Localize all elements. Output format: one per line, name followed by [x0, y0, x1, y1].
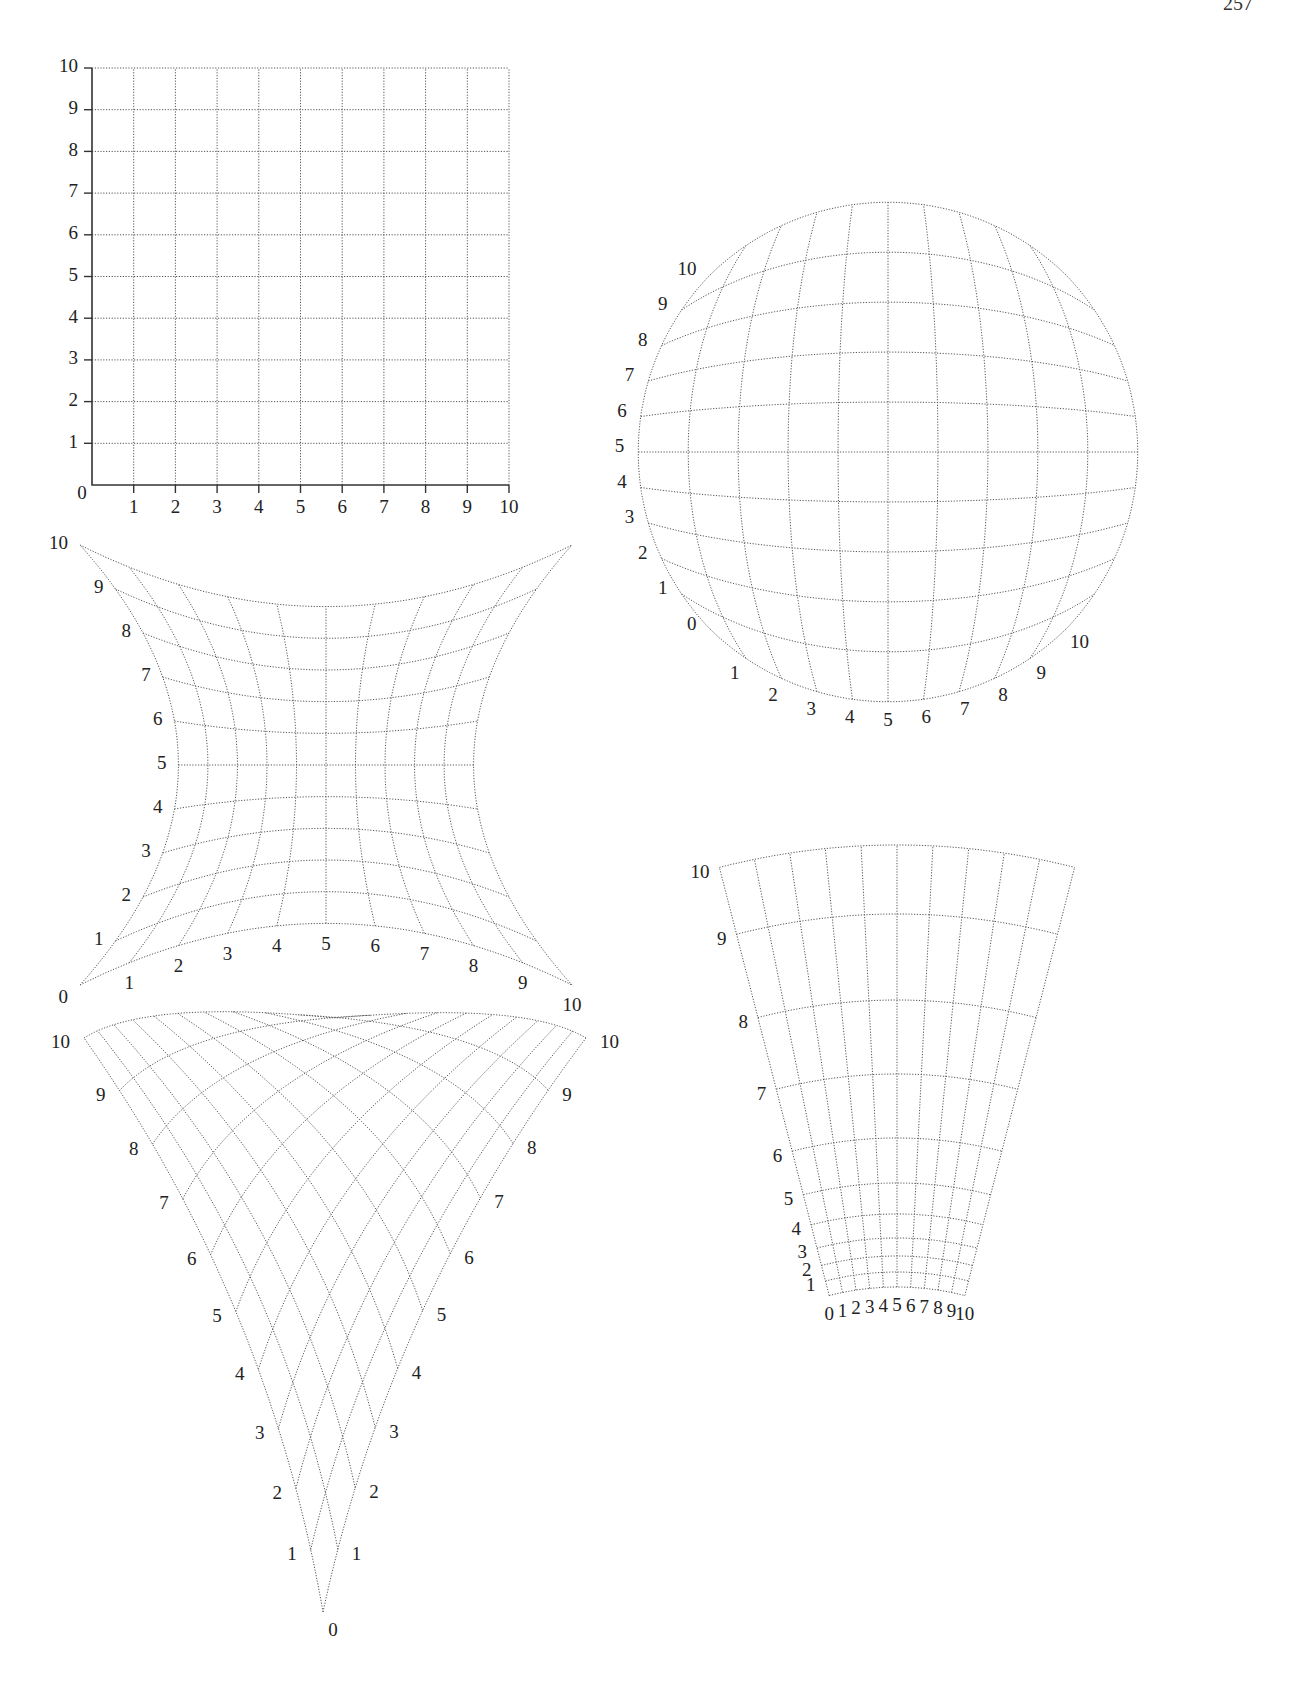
row-label: 8: [738, 1011, 748, 1032]
row-label: 2: [638, 542, 648, 563]
spherical-bulge-grid: 01234567891012345678910: [615, 202, 1138, 730]
fan-perspective-grid: 12345678910012345678910: [690, 845, 1074, 1324]
vertex-label: 0: [328, 1619, 338, 1640]
right-edge-label: 5: [437, 1304, 447, 1325]
y-axis-label: 1: [69, 431, 79, 452]
ray-column-line: [938, 853, 1004, 1290]
row-label: 8: [638, 329, 648, 350]
row-label: 9: [658, 293, 668, 314]
row-line: [80, 545, 572, 607]
row-label: 1: [94, 928, 104, 949]
row-label: 5: [157, 752, 167, 773]
row-label: 10: [690, 861, 709, 882]
column-label: 6: [922, 706, 932, 727]
row-label: 10: [49, 532, 68, 553]
column-label: 2: [768, 684, 778, 705]
left-family-line: [84, 1038, 323, 1612]
left-family-line: [233, 1012, 480, 1198]
row-label: 5: [615, 435, 625, 456]
origin-label: 0: [77, 482, 87, 503]
x-axis-label: 4: [254, 496, 264, 517]
y-axis-label: 6: [69, 222, 79, 243]
column-label: 6: [370, 935, 380, 956]
left-family-line: [204, 1012, 450, 1254]
right-family-line: [311, 1031, 573, 1550]
row-label: 7: [625, 364, 635, 385]
v-shaped-curved-grid: 01122334455667788991010: [51, 1012, 619, 1641]
x-axis-label: 9: [463, 496, 473, 517]
right-edge-label: 1: [352, 1543, 362, 1564]
right-family-line: [211, 1013, 467, 1255]
column-label: 1: [838, 1300, 848, 1321]
column-label: 5: [892, 1294, 902, 1315]
right-edge-label: 4: [412, 1362, 422, 1383]
row-label: 1: [658, 577, 668, 598]
left-edge-label: 8: [129, 1138, 139, 1159]
y-axis-label: 3: [69, 347, 79, 368]
row-label: 5: [784, 1188, 794, 1209]
column-line: [474, 545, 572, 985]
x-axis-label: 5: [296, 496, 306, 517]
x-axis-label: 10: [500, 496, 519, 517]
ray-column-line: [952, 859, 1040, 1292]
column-label: 7: [920, 1296, 930, 1317]
column-line: [385, 597, 424, 934]
ray-column-line: [911, 846, 933, 1287]
column-label: 1: [124, 972, 134, 993]
row-label: 6: [773, 1145, 783, 1166]
row-line: [163, 828, 490, 853]
left-edge-label: 6: [187, 1248, 197, 1269]
right-family-line: [153, 1013, 406, 1144]
row-label: 8: [121, 620, 131, 641]
column-label: 7: [420, 943, 430, 964]
column-label: 7: [960, 698, 970, 719]
right-family-line: [323, 1038, 586, 1612]
row-label: 3: [798, 1241, 808, 1262]
row-label: 0: [59, 986, 69, 1007]
left-family-line: [154, 1016, 398, 1368]
row-label: 4: [792, 1218, 802, 1239]
column-label: 2: [851, 1297, 861, 1318]
column-line: [228, 597, 267, 934]
column-label: 10: [955, 1303, 974, 1324]
row-label: 7: [757, 1083, 767, 1104]
y-axis-label: 9: [69, 97, 79, 118]
meridian-line: [638, 275, 710, 630]
right-family-line: [236, 1015, 493, 1312]
column-label: 3: [865, 1296, 875, 1317]
left-edge-label: 1: [287, 1543, 297, 1564]
row-label: 10: [678, 258, 697, 279]
left-edge-label: 3: [255, 1422, 265, 1443]
column-label: 8: [933, 1297, 943, 1318]
y-axis-label: 7: [69, 180, 79, 201]
ray-column-line: [825, 849, 869, 1289]
left-edge-label: 2: [272, 1482, 282, 1503]
row-label: 9: [94, 576, 104, 597]
ray-column-line: [965, 867, 1075, 1295]
ray-column-line: [861, 846, 883, 1287]
right-edge-label: 9: [562, 1084, 572, 1105]
right-family-line: [258, 1017, 516, 1369]
column-label: 2: [174, 955, 184, 976]
left-edge-label: 9: [96, 1084, 106, 1105]
column-label: 5: [883, 709, 893, 730]
right-family-line: [278, 1021, 537, 1429]
parallel-line: [711, 630, 1066, 702]
column-label: 3: [223, 943, 233, 964]
row-label: 4: [153, 796, 163, 817]
column-label: 9: [1037, 662, 1047, 683]
column-label: 8: [998, 684, 1008, 705]
y-axis-label: 2: [69, 389, 79, 410]
column-label: 0: [824, 1303, 834, 1324]
x-axis-label: 3: [212, 496, 222, 517]
column-label: 10: [1070, 631, 1089, 652]
column-label: 10: [563, 994, 582, 1015]
left-edge-label: 10: [51, 1031, 70, 1052]
pinched-concave-grid: 01234567891012345678910: [49, 532, 582, 1015]
left-edge-label: 7: [159, 1192, 169, 1213]
column-label: 6: [906, 1295, 916, 1316]
arc-row-line: [817, 1238, 977, 1248]
y-axis-label: 8: [69, 139, 79, 160]
x-axis-label: 8: [421, 496, 431, 517]
y-axis-label: 4: [69, 306, 79, 327]
